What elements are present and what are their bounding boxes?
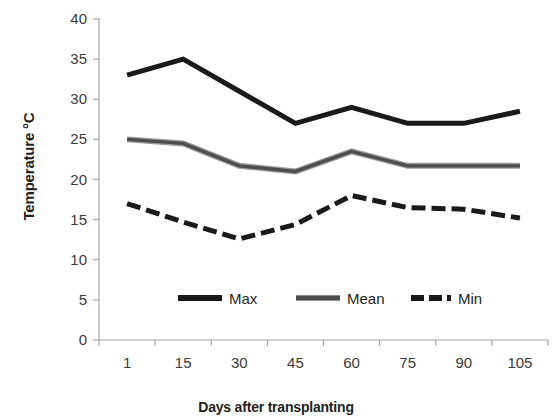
legend-item-min: Min <box>411 288 482 308</box>
series-line-max <box>127 59 520 123</box>
y-axis-tick-label: 35 <box>45 51 87 66</box>
legend-label-min: Min <box>458 291 482 306</box>
x-axis-title: Days after transplanting <box>0 399 552 415</box>
y-axis-tick-label: 40 <box>45 11 87 26</box>
line-chart: Temperature °C 4035302520151050 11530456… <box>0 0 552 417</box>
legend-item-max: Max <box>178 288 257 308</box>
legend-swatch-min-icon <box>411 295 451 301</box>
x-axis-tick-label: 30 <box>209 355 269 370</box>
x-axis-tick-label: 60 <box>322 355 382 370</box>
x-axis-tick-label: 15 <box>153 355 213 370</box>
y-axis-tick-label: 30 <box>45 91 87 106</box>
legend-item-mean: Mean <box>296 288 385 308</box>
y-axis-tick-label: 10 <box>45 252 87 267</box>
y-axis-tick-label: 5 <box>45 292 87 307</box>
x-axis-tick-label: 1 <box>97 355 157 370</box>
series-line-mean <box>127 139 520 171</box>
chart-legend: Max Mean Min <box>178 288 498 308</box>
x-axis-tick-label: 90 <box>434 355 494 370</box>
y-axis-tick-label: 15 <box>45 212 87 227</box>
legend-swatch-max-icon <box>178 295 222 301</box>
y-axis-tick-label: 25 <box>45 131 87 146</box>
x-axis-tick-label: 45 <box>265 355 325 370</box>
legend-label-max: Max <box>229 291 257 306</box>
y-axis-title: Temperature °C <box>20 77 37 257</box>
legend-swatch-mean-icon <box>296 295 340 301</box>
legend-label-mean: Mean <box>347 291 385 306</box>
series-line-min <box>127 196 520 239</box>
y-axis-tick-label: 20 <box>45 172 87 187</box>
y-axis-tick-label: 0 <box>45 332 87 347</box>
x-axis-tick-label: 75 <box>378 355 438 370</box>
x-axis-tick-label: 105 <box>490 355 550 370</box>
